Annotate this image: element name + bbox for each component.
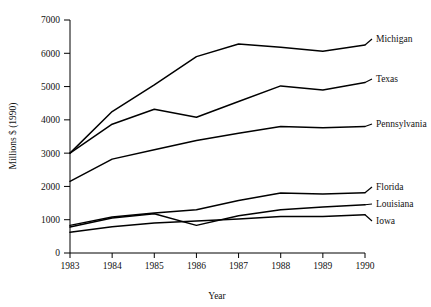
leader-line-louisiana (365, 204, 372, 205)
series-label-florida: Florida (376, 182, 404, 192)
y-tick-label: 6000 (41, 49, 60, 59)
x-tick-label: 1987 (229, 261, 248, 271)
x-tick-label: 1986 (187, 261, 206, 271)
series-line-pennsylvania (70, 127, 365, 182)
x-tick-label: 1990 (356, 261, 375, 271)
leader-line-iowa (365, 215, 372, 221)
y-tick-label: 2000 (41, 182, 60, 192)
line-chart: 01000200030004000500060007000 1983198419… (0, 0, 431, 307)
y-tick-label: 0 (55, 248, 60, 258)
y-tick-label: 4000 (41, 115, 60, 125)
series-label-louisiana: Louisiana (376, 199, 414, 209)
x-axis-title: Year (208, 291, 226, 301)
y-axis-title: Millions $ (1990) (8, 102, 19, 169)
series-leader-lines (365, 39, 372, 221)
series-label-michigan: Michigan (376, 34, 413, 44)
leader-line-michigan (365, 39, 372, 45)
y-tick-label: 1000 (41, 215, 60, 225)
series-label-iowa: Iowa (376, 216, 396, 226)
y-axis-ticks: 01000200030004000500060007000 (41, 15, 70, 258)
x-tick-label: 1988 (271, 261, 290, 271)
series-label-texas: Texas (376, 74, 398, 84)
series-lines (70, 44, 365, 232)
chart-canvas: 01000200030004000500060007000 1983198419… (0, 0, 431, 307)
leader-line-florida (365, 187, 372, 193)
series-label-pennsylvania: Pennsylvania (376, 119, 427, 129)
series-line-texas (70, 83, 365, 154)
y-tick-label: 7000 (41, 15, 60, 25)
leader-line-texas (365, 79, 372, 83)
y-tick-label: 3000 (41, 149, 60, 159)
leader-line-pennsylvania (365, 124, 372, 127)
x-tick-label: 1984 (103, 261, 122, 271)
series-labels: MichiganTexasPennsylvaniaFloridaLouisian… (376, 34, 427, 226)
x-axis-ticks: 19831984198519861987198819891990 (61, 253, 375, 271)
x-tick-label: 1983 (61, 261, 80, 271)
x-tick-label: 1985 (145, 261, 164, 271)
x-tick-label: 1989 (313, 261, 332, 271)
y-tick-label: 5000 (41, 82, 60, 92)
